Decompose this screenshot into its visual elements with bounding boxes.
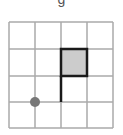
dot-marker [30,97,40,107]
shaded-square [61,49,87,76]
grid-diagram [0,0,123,135]
